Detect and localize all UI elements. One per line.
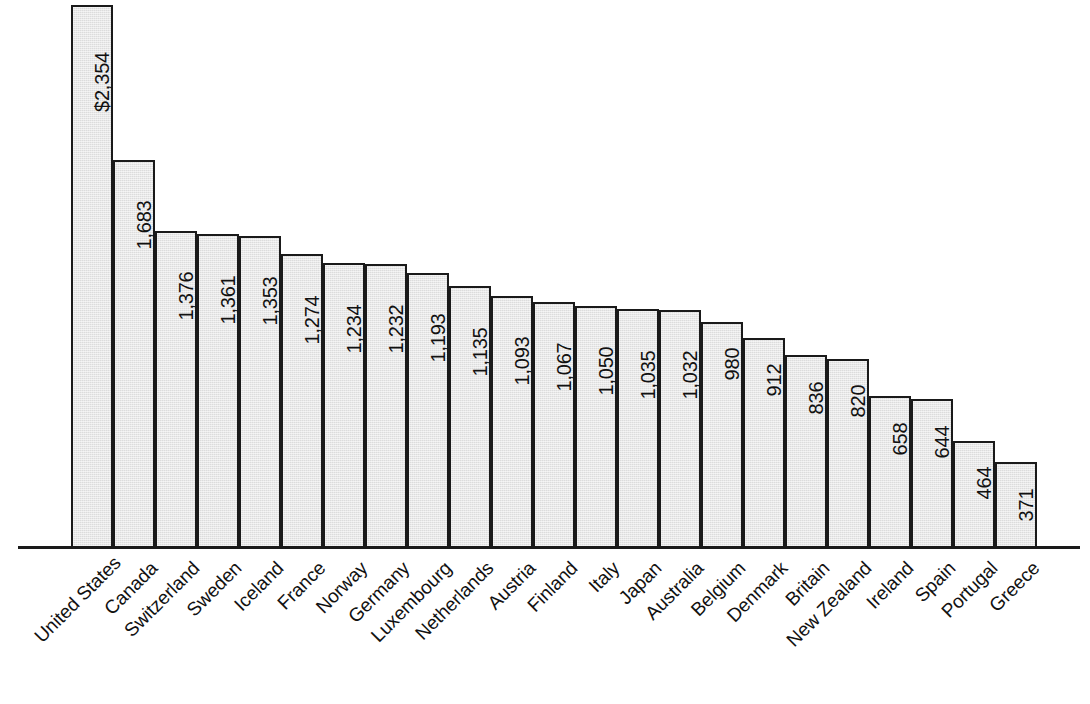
bar-value-label: 820	[848, 385, 868, 418]
bar: 464	[953, 441, 995, 548]
bar-value-label: 658	[890, 422, 910, 455]
bar-value-label: 1,274	[302, 295, 322, 344]
bar: 1,050	[575, 306, 617, 548]
bar-value-label: $2,354	[92, 52, 112, 112]
bar-value-label: 1,376	[176, 272, 196, 321]
bar: 1,274	[281, 254, 323, 548]
bar-value-label: 912	[764, 364, 784, 397]
bar: 371	[995, 462, 1037, 548]
bar: 1,032	[659, 310, 701, 548]
bar: 1,353	[239, 236, 281, 548]
bar-value-label: 464	[974, 467, 994, 500]
bar: 1,067	[533, 302, 575, 548]
bar-value-label: 1,067	[554, 343, 574, 392]
bar: 1,234	[323, 263, 365, 548]
bar: 1,683	[113, 160, 155, 548]
bar-value-label: 1,361	[218, 275, 238, 324]
bar: 1,135	[449, 286, 491, 548]
bar: 1,193	[407, 273, 449, 548]
bar: 1,232	[365, 264, 407, 548]
bar-value-label: 371	[1016, 489, 1036, 522]
bar: 1,035	[617, 309, 659, 548]
bar-value-label: 1,093	[512, 337, 532, 386]
bar-chart: $2,3541,6831,3761,3611,3531,2741,2341,23…	[0, 0, 1090, 704]
bar-value-label: 644	[932, 426, 952, 459]
bar: 836	[785, 355, 827, 548]
bar: 1,361	[197, 234, 239, 548]
bar-value-label: 1,035	[638, 350, 658, 399]
bar: 1,376	[155, 231, 197, 548]
bar-value-label: 1,050	[596, 347, 616, 396]
bar-value-label: 1,135	[470, 327, 490, 376]
bar: 658	[869, 396, 911, 548]
bar: 820	[827, 359, 869, 548]
category-axis-labels: United StatesCanadaSwitzerlandSwedenIcel…	[0, 548, 1090, 704]
bar-value-label: 1,683	[134, 201, 154, 250]
bar-value-label: 980	[722, 348, 742, 381]
bar: 644	[911, 399, 953, 548]
bar-value-label: 1,193	[428, 314, 448, 363]
bar-value-label: 836	[806, 381, 826, 414]
bar-value-label: 1,232	[386, 305, 406, 354]
bar: 912	[743, 338, 785, 548]
plot-area: $2,3541,6831,3761,3611,3531,2741,2341,23…	[0, 0, 1090, 548]
bar-value-label: 1,234	[344, 304, 364, 353]
bar: 1,093	[491, 296, 533, 548]
bar: $2,354	[71, 5, 113, 548]
bar: 980	[701, 322, 743, 548]
bar-value-label: 1,353	[260, 277, 280, 326]
bar-value-label: 1,032	[680, 351, 700, 400]
